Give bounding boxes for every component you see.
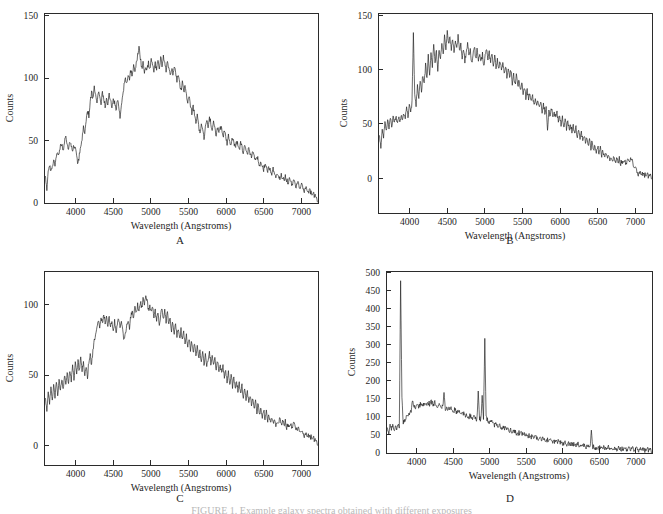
panel-a-xtick-label: 7000 <box>292 206 311 217</box>
panel-d-frame <box>386 271 652 453</box>
panel-d: 0501001502002503003504004505004000450050… <box>330 258 663 514</box>
panel-c-xtick-label: 5000 <box>141 468 160 479</box>
panel-c-ytick-label: 0 <box>33 440 38 451</box>
panel-d-ytick-label: 400 <box>366 303 381 314</box>
panel-c-xtick-label: 6500 <box>254 468 273 479</box>
panel-d-xtick-label: 4000 <box>407 456 426 467</box>
panel-c-ytick-label: 100 <box>24 299 39 310</box>
panel-a-xtick-label: 6000 <box>217 206 236 217</box>
panel-a-ytick-label: 50 <box>28 135 38 146</box>
panel-b-ytick-label: 150 <box>358 10 373 21</box>
panel-b-ytick-label: 100 <box>358 64 373 75</box>
panel-a-ytick-label: 100 <box>24 72 39 83</box>
panel-c-yaxis-title: Counts <box>4 354 15 382</box>
panel-a-yaxis-title: Counts <box>4 94 15 122</box>
panel-a-xtick-label: 5000 <box>141 206 160 217</box>
panel-b-ytick-label: 0 <box>367 173 372 184</box>
panel-d-yaxis-title: Counts <box>346 348 357 376</box>
panel-d-ytick-label: 50 <box>370 429 380 440</box>
panel-c-xtick-label: 5500 <box>179 468 198 479</box>
panel-a-ytick-label: 0 <box>33 197 38 208</box>
panel-d-ytick-label: 300 <box>366 339 381 350</box>
panel-b-spectrum-trace <box>380 30 652 178</box>
panel-d-ytick-label: 350 <box>366 321 381 332</box>
panel-c-spectrum-trace <box>46 296 318 446</box>
panel-d-ytick-label: 500 <box>366 267 381 278</box>
panel-d-ytick-label: 200 <box>366 375 381 386</box>
panel-a-xtick-label: 4000 <box>66 206 85 217</box>
panel-c-plot: 0501004000450050005500600065007000Wavele… <box>0 258 330 514</box>
figure-caption-strip: FIGURE 1. Example galaxy spectra obtaine… <box>0 506 663 514</box>
panel-d-ytick-label: 250 <box>366 357 381 368</box>
panel-d-xaxis-title: Wavelength (Angstroms) <box>469 470 570 482</box>
panel-a-xaxis-title: Wavelength (Angstroms) <box>131 220 232 232</box>
panel-d-xtick-label: 5000 <box>480 456 499 467</box>
panel-a-xtick-label: 4500 <box>104 206 123 217</box>
panel-a-spectrum-trace <box>46 46 318 202</box>
panel-a-xtick-label: 5500 <box>179 206 198 217</box>
panel-b-ytick-label: 50 <box>362 118 372 129</box>
panel-b-xtick-label: 4000 <box>400 216 419 227</box>
spectra-figure: 0501001504000450050005500600065007000Wav… <box>0 0 663 514</box>
panel-b-xtick-label: 5500 <box>513 216 532 227</box>
panel-d-spectrum-trace <box>387 281 651 453</box>
panel-letter-b: B <box>490 234 530 246</box>
panel-b-xtick-label: 6500 <box>588 216 607 227</box>
panel-d-ytick-label: 150 <box>366 393 381 404</box>
panel-b-xtick-label: 5000 <box>475 216 494 227</box>
panel-d-xtick-label: 6000 <box>553 456 572 467</box>
panel-a: 0501001504000450050005500600065007000Wav… <box>0 0 330 258</box>
panel-c-xtick-label: 7000 <box>292 468 311 479</box>
panel-a-ytick-label: 150 <box>24 10 39 21</box>
panel-letter-c: C <box>160 492 200 504</box>
panel-d-xtick-label: 5500 <box>517 456 536 467</box>
panel-d-xtick-label: 4500 <box>444 456 463 467</box>
panel-letter-a: A <box>160 234 200 246</box>
panel-d-ytick-label: 100 <box>366 411 381 422</box>
panel-d-ytick-label: 0 <box>375 447 380 458</box>
panel-d-plot: 0501001502002503003504004505004000450050… <box>330 258 663 514</box>
figure-caption: FIGURE 1. Example galaxy spectra obtaine… <box>0 506 663 514</box>
panel-b-xtick-label: 4500 <box>438 216 457 227</box>
panel-a-xtick-label: 6500 <box>254 206 273 217</box>
panel-c-xtick-label: 4500 <box>104 468 123 479</box>
panel-d-xtick-label: 6500 <box>590 456 609 467</box>
panel-a-plot: 0501001504000450050005500600065007000Wav… <box>0 0 330 258</box>
panel-c-ytick-label: 50 <box>28 369 38 380</box>
panel-b-xtick-label: 7000 <box>626 216 645 227</box>
panel-c: 0501004000450050005500600065007000Wavele… <box>0 258 330 514</box>
panel-b-frame <box>378 13 652 213</box>
panel-d-xtick-label: 7000 <box>626 456 645 467</box>
panel-b: 0501001504000450050005500600065007000Wav… <box>330 0 663 258</box>
panel-d-ytick-label: 450 <box>366 285 381 296</box>
panel-b-yaxis-title: Counts <box>338 99 349 127</box>
panel-c-xtick-label: 6000 <box>217 468 236 479</box>
panel-b-plot: 0501001504000450050005500600065007000Wav… <box>330 0 663 258</box>
panel-letter-d: D <box>490 492 530 504</box>
panel-b-xtick-label: 6000 <box>551 216 570 227</box>
panel-c-xtick-label: 4000 <box>66 468 85 479</box>
panel-c-frame <box>44 271 318 465</box>
